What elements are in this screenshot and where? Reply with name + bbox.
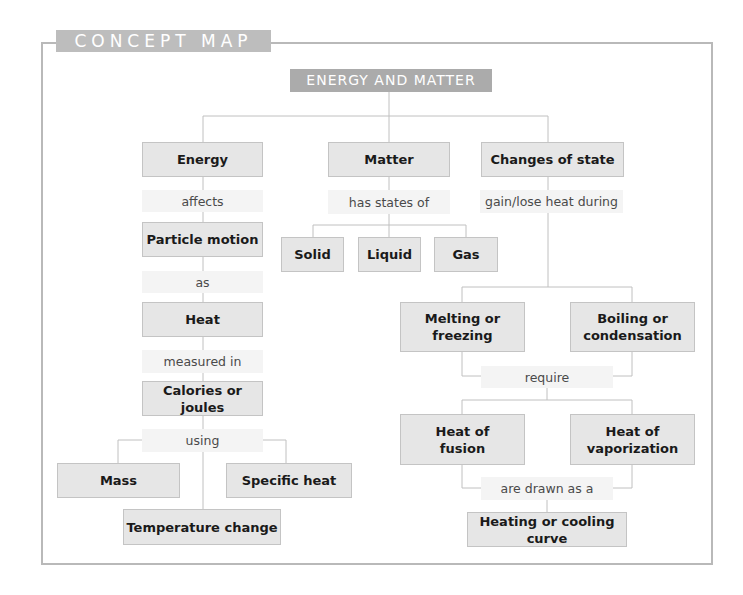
boiling-condensation-node: Boiling or condensation [570,302,695,352]
changes-of-state-node: Changes of state [481,142,624,177]
connector [613,352,632,376]
link-gain-lose-heat: gain/lose heat during [480,190,623,213]
link-using: using [142,429,263,452]
connector [263,440,286,463]
link-require: require [481,366,613,388]
matter-node: Matter [328,142,450,177]
link-are-drawn-as-a: are drawn as a [481,477,613,500]
root-node: ENERGY AND MATTER [290,69,492,92]
concept-map-title: CONCEPT MAP [56,30,271,52]
connector [462,465,481,488]
particle-motion-node: Particle motion [142,222,263,257]
connector [613,465,632,488]
liquid-node: Liquid [358,237,421,272]
link-has-states-of: has states of [328,190,450,214]
link-measured-in: measured in [142,350,263,373]
melting-freezing-node: Melting or freezing [400,302,525,352]
link-affects: affects [142,190,263,212]
specific-heat-node: Specific heat [226,463,352,498]
link-as: as [142,271,263,293]
temperature-change-node: Temperature change [123,509,281,545]
gas-node: Gas [434,237,498,272]
connector [118,440,142,463]
heat-of-vaporization-node: Heat of vaporization [570,414,695,465]
energy-node: Energy [142,142,263,177]
calories-node: Calories or joules [142,381,263,416]
connector [462,352,481,376]
solid-node: Solid [281,237,344,272]
heat-of-fusion-node: Heat of fusion [400,414,525,465]
heat-node: Heat [142,302,263,337]
heating-cooling-curve-node: Heating or cooling curve [467,512,627,547]
mass-node: Mass [57,463,180,498]
